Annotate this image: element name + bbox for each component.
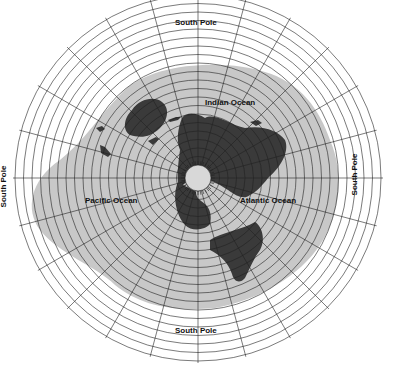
label-atlantic-ocean: Atlantic Ocean	[240, 196, 296, 205]
label-south-pole-bottom: South Pole	[175, 326, 217, 335]
map-graphic	[0, 0, 397, 374]
north-pole-disc	[185, 165, 211, 191]
flat-earth-map: South Pole South Pole South Pole South P…	[0, 0, 397, 374]
label-indian-ocean: Indian Ocean	[205, 98, 255, 107]
label-south-pole-left: South Pole	[0, 166, 8, 208]
label-south-pole-right: South Pole	[350, 154, 359, 196]
label-pacific-ocean: Pacific Ocean	[85, 196, 137, 205]
label-south-pole-top: South Pole	[175, 18, 217, 27]
